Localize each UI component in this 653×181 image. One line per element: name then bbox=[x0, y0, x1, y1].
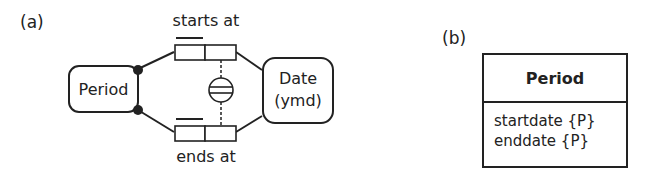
equality-constraint-icon bbox=[209, 78, 233, 102]
connector-period-top bbox=[138, 52, 174, 69]
entity-period-label: Period bbox=[79, 80, 129, 99]
uml-attributes: startdate {P} enddate {P} bbox=[484, 103, 626, 151]
connector-period-bottom bbox=[138, 110, 174, 132]
fact-reading-starts-at: starts at bbox=[173, 11, 240, 30]
entity-date-label: Date bbox=[279, 69, 317, 88]
fact-type-ends-at[interactable] bbox=[175, 126, 236, 141]
mandatory-dot-bottom bbox=[133, 105, 143, 115]
uml-attribute-startdate: startdate {P} bbox=[494, 111, 626, 131]
uml-class-period[interactable]: Period startdate {P} enddate {P} bbox=[482, 53, 628, 168]
connector-date-bottom bbox=[236, 116, 262, 132]
fact-reading-ends-at: ends at bbox=[176, 147, 236, 166]
fact-type-starts-at[interactable] bbox=[175, 45, 236, 60]
entity-date[interactable]: Date (ymd) bbox=[263, 58, 333, 123]
uml-attribute-enddate: enddate {P} bbox=[494, 131, 626, 151]
entity-period[interactable]: Period bbox=[69, 66, 138, 112]
connector-date-top bbox=[236, 52, 262, 70]
panel-b-label: (b) bbox=[442, 28, 466, 48]
uml-class-name: Period bbox=[484, 55, 626, 103]
mandatory-dot-top bbox=[133, 65, 143, 75]
entity-date-sublabel: (ymd) bbox=[274, 91, 322, 110]
